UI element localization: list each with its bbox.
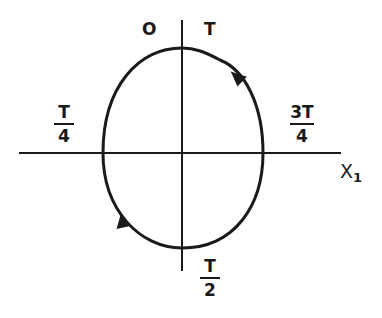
fraction-bar [290, 123, 314, 125]
axis-label-subscript: 1 [353, 170, 362, 185]
origin-label: O [142, 21, 156, 38]
fraction-numerator: T [204, 258, 216, 275]
axis-label-main: X [340, 160, 353, 182]
arrow-down-icon [113, 213, 134, 234]
fraction-bar [200, 277, 220, 279]
fraction-denominator: 4 [58, 128, 70, 145]
x1-axis-label: X1 [340, 160, 362, 185]
fraction-numerator: T [58, 104, 70, 121]
period-label: T [204, 21, 216, 38]
quarter-period-label: T 4 [54, 104, 74, 145]
fraction-bar [54, 123, 74, 125]
three-quarter-period-label: 3T 4 [290, 104, 314, 145]
fraction-denominator: 2 [204, 282, 216, 299]
half-period-label: T 2 [200, 258, 220, 299]
orbit-diagram [0, 0, 382, 318]
fraction-numerator: 3T [290, 104, 313, 121]
fraction-denominator: 4 [296, 128, 308, 145]
